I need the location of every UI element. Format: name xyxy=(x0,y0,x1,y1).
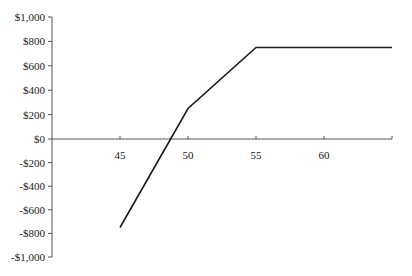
y-tick-label: $200 xyxy=(23,109,46,121)
y-tick-label: $400 xyxy=(23,84,46,96)
x-axis: 45505560 xyxy=(52,136,392,161)
y-tick-label: -$1,000 xyxy=(11,251,45,263)
payoff-chart: $1,000$800$600$400$200$0-$200-$400-$600-… xyxy=(0,0,412,276)
y-tick-label: -$800 xyxy=(19,227,45,239)
y-tick-label: -$400 xyxy=(19,180,45,192)
y-tick-label: -$200 xyxy=(19,157,45,169)
x-tick-label: 45 xyxy=(115,149,127,161)
y-tick-label: $600 xyxy=(23,60,46,72)
y-tick-label: -$600 xyxy=(19,204,45,216)
y-tick-label: $1,000 xyxy=(15,11,46,23)
y-tick-label: $800 xyxy=(23,35,46,47)
x-tick-label: 50 xyxy=(183,149,195,161)
x-tick-label: 60 xyxy=(319,149,331,161)
y-tick-label: $0 xyxy=(34,133,46,145)
y-axis: $1,000$800$600$400$200$0-$200-$400-$600-… xyxy=(11,11,52,263)
x-tick-label: 55 xyxy=(251,149,263,161)
